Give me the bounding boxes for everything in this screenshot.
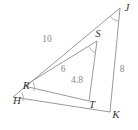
angle-arc-h-icon <box>22 93 23 101</box>
vertex-label-j: J <box>125 1 131 13</box>
side-label-rs: 6 <box>61 64 66 74</box>
angle-arc-s-icon <box>89 47 96 53</box>
side-label-st: 4.8 <box>71 75 83 85</box>
side-label-hj: 10 <box>42 34 52 44</box>
vertex-label-h: H <box>12 94 22 106</box>
angle-arc-j-icon <box>110 16 118 21</box>
vertex-label-s: S <box>95 27 101 39</box>
geometry-figure: H J K R S T 10 8 6 4.8 <box>0 0 138 130</box>
geometry-canvas: H J K R S T 10 8 6 4.8 <box>0 0 138 130</box>
vertex-label-r: R <box>22 79 30 91</box>
vertex-label-k: K <box>111 108 120 120</box>
angle-arc-r-icon <box>33 82 35 91</box>
vertex-label-t: T <box>89 98 96 110</box>
side-label-jk: 8 <box>120 64 125 74</box>
